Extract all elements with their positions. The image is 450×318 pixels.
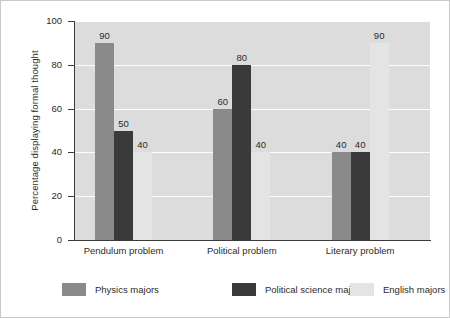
bar [133,152,152,240]
y-axis-tick-label: 100 [16,15,62,26]
bar [213,109,232,240]
y-axis-tick-label: 20 [16,190,62,201]
y-axis-tick [68,240,75,241]
y-axis-title: Percentage displaying formal thought [29,11,40,251]
legend-label: Political science majors [265,284,364,295]
bar-chart-figure: Percentage displaying formal thought 020… [0,0,450,318]
x-axis-category-label: Pendulum problem [59,245,189,256]
legend-color-swatch [350,283,374,296]
y-axis-tick [68,196,75,197]
chart-legend: Physics majorsPolitical science majorsEn… [0,280,450,302]
bar-value-label: 90 [366,30,392,41]
y-axis-tick [68,109,75,110]
bar-value-label: 40 [130,139,156,150]
y-axis-tick-label: 80 [16,59,62,70]
bar [351,152,370,240]
legend-color-swatch [232,283,256,296]
bar-value-label: 50 [111,118,137,129]
legend-label: Physics majors [95,284,159,295]
y-axis-tick-label: 40 [16,146,62,157]
y-axis-tick [68,65,75,66]
bar [251,152,270,240]
x-axis-category-label: Literary problem [295,245,425,256]
y-axis-tick-label: 60 [16,103,62,114]
bar [232,65,251,240]
y-axis-tick-label: 0 [16,234,62,245]
legend-item[interactable]: English majors [350,280,445,298]
legend-item[interactable]: Physics majors [62,280,159,298]
y-axis-tick [68,152,75,153]
x-axis-line [74,240,431,241]
y-axis-line [74,21,75,241]
bar [332,152,351,240]
bar-value-label: 90 [92,30,118,41]
legend-label: English majors [383,284,445,295]
bar [95,43,114,240]
bar-value-label: 40 [248,139,274,150]
bar-value-label: 80 [229,52,255,63]
gridline [75,21,430,22]
y-axis-tick [68,21,75,22]
bar [370,43,389,240]
legend-color-swatch [62,283,86,296]
legend-item[interactable]: Political science majors [232,280,364,298]
x-axis-category-label: Political problem [177,245,307,256]
